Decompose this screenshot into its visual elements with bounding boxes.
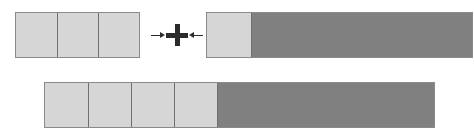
light-unit-cell: [16, 13, 57, 57]
addend-one-bar: [15, 12, 140, 58]
diagram-canvas: [0, 0, 474, 136]
light-unit-cell: [45, 83, 88, 127]
sum-bar: [44, 82, 435, 128]
light-unit-cell: [88, 83, 131, 127]
light-unit-cell: [207, 13, 251, 57]
dark-segment: [217, 83, 434, 127]
light-unit-cell: [98, 13, 139, 57]
plus-icon: [166, 24, 188, 46]
arrow-left-icon: [189, 30, 203, 40]
operator-cluster: [150, 12, 204, 58]
light-unit-cell: [131, 83, 174, 127]
light-unit-cell: [57, 13, 98, 57]
light-unit-cell: [174, 83, 217, 127]
dark-segment: [251, 13, 472, 57]
addend-two-bar: [206, 12, 473, 58]
arrow-right-icon: [151, 30, 165, 40]
